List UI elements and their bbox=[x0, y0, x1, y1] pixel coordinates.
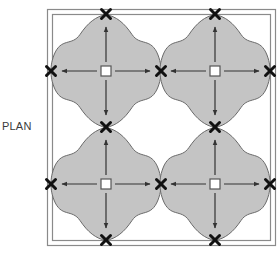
center-square-icon bbox=[210, 66, 220, 76]
center-square-icon bbox=[210, 179, 220, 189]
center-square-icon bbox=[101, 66, 111, 76]
plan-diagram bbox=[0, 0, 279, 253]
center-square-icon bbox=[101, 179, 111, 189]
